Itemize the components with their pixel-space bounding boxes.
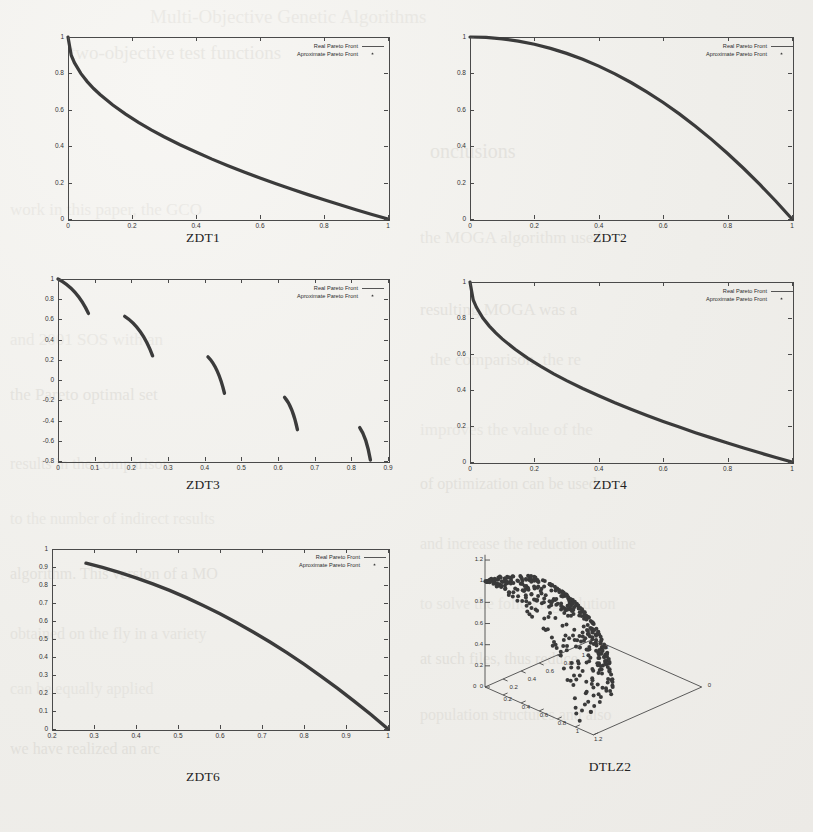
dtlz2-point <box>530 592 534 596</box>
dtlz2-point <box>606 681 610 685</box>
y-tick <box>52 549 56 550</box>
y-tick-right <box>384 711 388 712</box>
x-tick-top <box>351 279 352 283</box>
dtlz2-point <box>600 667 604 671</box>
dtlz2-point <box>585 690 589 694</box>
y-tick-label: 0.7 <box>26 599 48 606</box>
dtlz2-point <box>575 638 579 642</box>
x-tick-label: 0.7 <box>248 732 276 739</box>
dtlz2-point <box>507 591 511 595</box>
dtlz2-axis-label: 0.6 <box>540 712 548 718</box>
x-tick-label: 1 <box>374 732 402 739</box>
x-tick-top <box>260 37 261 41</box>
y-tick-label: 0 <box>42 215 64 222</box>
legend-line-sample <box>771 288 793 294</box>
dtlz2-point <box>577 662 581 666</box>
dtlz2-axis-label: 0.8 <box>564 660 572 666</box>
dtlz2-point <box>553 616 557 620</box>
legend-label-approx: Aproximate Pareto Front <box>297 50 358 58</box>
dtlz2-point <box>605 651 609 655</box>
y-tick-right <box>384 421 388 422</box>
y-tick-label: 0.8 <box>444 69 466 76</box>
dtlz2-axis-label: 1 <box>576 728 579 734</box>
dtlz2-point <box>611 685 615 689</box>
dtlz2-point <box>530 606 534 610</box>
dtlz2-point <box>499 576 503 580</box>
dtlz2-point <box>569 679 573 683</box>
dtlz2-point <box>578 646 582 650</box>
y-tick <box>52 693 56 694</box>
x-tick-label: 0.5 <box>164 732 192 739</box>
x-tick <box>260 215 261 219</box>
dtlz2-point <box>611 680 615 684</box>
y-tick <box>68 110 72 111</box>
dtlz2-point <box>567 636 571 640</box>
y-tick-label: 0.9 <box>26 563 48 570</box>
y-tick-right <box>384 360 388 361</box>
y-tick <box>52 675 56 676</box>
caption-zdt2: ZDT2 <box>407 230 813 246</box>
caption-zdt1: ZDT1 <box>0 230 406 246</box>
x-tick-top <box>728 282 729 286</box>
y-tick-label: -0.6 <box>32 437 54 444</box>
x-tick <box>95 457 96 461</box>
dtlz2-point <box>542 597 546 601</box>
x-tick-top <box>196 37 197 41</box>
legend-line-sample <box>771 43 793 49</box>
x-tick-label: 0.5 <box>227 464 255 471</box>
x-tick-label: 0 <box>456 465 484 472</box>
dtlz2-point <box>535 598 539 602</box>
y-tick <box>52 603 56 604</box>
x-tick-top <box>663 37 664 41</box>
dtlz2-point <box>547 615 551 619</box>
x-tick-label: 0.8 <box>714 465 742 472</box>
y-tick <box>68 219 72 220</box>
dtlz2-point <box>559 602 563 606</box>
y-tick-right <box>384 319 388 320</box>
dtlz2-point <box>546 627 550 631</box>
legend-label-approx: Aproximate Pareto Front <box>299 561 360 569</box>
x-tick <box>241 457 242 461</box>
x-tick-label: 0.2 <box>117 464 145 471</box>
legend-zdt6: Real Pareto Front Aproximate Pareto Fron… <box>299 553 386 569</box>
dtlz2-point <box>555 646 559 650</box>
y-tick <box>58 340 62 341</box>
x-tick <box>663 215 664 219</box>
dtlz2-point <box>600 638 604 642</box>
x-tick-label: 0.6 <box>246 222 274 229</box>
y-tick-label: 0.4 <box>444 386 466 393</box>
x-tick-label: 0.7 <box>301 464 329 471</box>
x-tick-label: 0.2 <box>520 465 548 472</box>
x-tick <box>132 215 133 219</box>
dtlz2-point <box>503 587 507 591</box>
x-tick <box>388 215 389 219</box>
x-tick-top <box>241 279 242 283</box>
y-tick <box>58 299 62 300</box>
dtlz2-point <box>587 659 591 663</box>
dtlz2-z-label: 0.6 <box>465 620 483 626</box>
y-tick-label: 0.6 <box>444 106 466 113</box>
x-tick-label: 0.9 <box>332 732 360 739</box>
scatter3d-dtlz2 <box>427 527 807 757</box>
dtlz2-point <box>572 674 576 678</box>
dtlz2-floor-tick <box>575 725 580 727</box>
dtlz2-point <box>520 579 524 583</box>
curve-zdt4 <box>470 282 792 462</box>
dtlz2-point <box>528 601 532 605</box>
dtlz2-point <box>536 594 540 598</box>
dtlz2-point <box>578 719 582 723</box>
dtlz2-point <box>571 683 575 687</box>
dtlz2-axis-label: 1.2 <box>600 644 608 650</box>
x-tick-top <box>599 282 600 286</box>
y-tick <box>52 711 56 712</box>
y-tick <box>58 380 62 381</box>
plot-dtlz2: 0.20.40.60.811.20.20.40.60.811.20000.20.… <box>407 517 813 782</box>
dtlz2-point <box>592 694 596 698</box>
legend-line-sample <box>362 285 384 291</box>
legend-label-approx: Aproximate Pareto Front <box>706 295 767 303</box>
zdt3-segment <box>208 357 225 393</box>
dtlz2-point <box>511 590 515 594</box>
dtlz2-point <box>543 579 547 583</box>
x-tick <box>388 725 389 729</box>
y-tick-label: 1 <box>444 33 466 40</box>
